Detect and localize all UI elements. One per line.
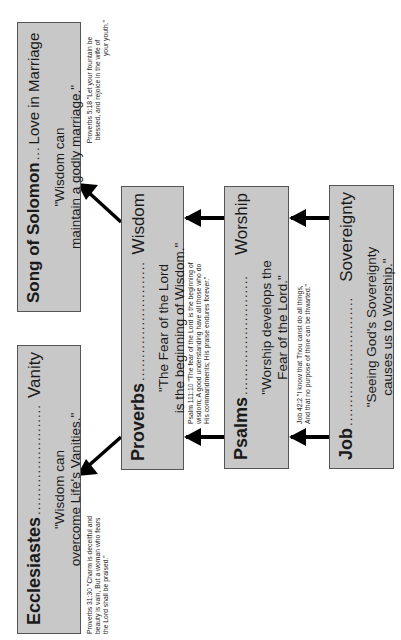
theme-label: Sovereignty <box>337 192 357 282</box>
verse-line: Proverbs 31:30 "Charm is deceitful and <box>86 484 94 634</box>
box-heading: Ecclesiastes ........................ Va… <box>24 352 50 625</box>
book-name: Job <box>336 428 357 460</box>
quote-line: "Wisdom can <box>52 346 68 633</box>
verse-line: And that no purpose of thine can be thwa… <box>304 224 312 424</box>
box-psalms: Psalms .......................... Worshi… <box>224 186 289 469</box>
verse-line: Proverbs 5:18 "Let your fountain be <box>86 20 94 160</box>
verse-line: beauty is vain, But a woman who fears <box>94 484 102 634</box>
verse-line: the Lord shall be praised." <box>102 484 110 634</box>
verse-line: your youth." <box>102 20 110 160</box>
book-name: Ecclesiastes <box>24 517 45 625</box>
box-proverbs: Proverbs .......................... Wisd… <box>121 186 184 470</box>
quote-line: "Worship develops the <box>259 187 275 468</box>
leader-dots: .......................... <box>235 257 250 395</box>
arrow-job-to-psalms-lower <box>289 428 329 446</box>
book-name: Proverbs <box>128 383 149 461</box>
box-quote: "The Fear of the Lord is the beginning o… <box>156 187 188 469</box>
verse-line: wisdom; A good understanding have all th… <box>195 224 203 424</box>
leader-dots: ............................ <box>340 284 355 426</box>
quote-line: causes us to Worship." <box>380 186 396 468</box>
quote-line: "Seeing God's Sovereignty <box>364 186 380 468</box>
quote-line: maintain a godly marriage." <box>68 23 84 311</box>
box-job: Job ............................ Soverei… <box>329 185 394 469</box>
flow-diagram: Song of Solomon ... Love in Marriage "Wi… <box>0 0 401 640</box>
arrow-psalms-to-proverbs-lower <box>184 428 224 446</box>
quote-line: Fear of the Lord." <box>275 187 291 468</box>
verse-line: Psalm 111:10 "The fear of the Lord is th… <box>187 224 195 424</box>
verse-job-42-2: Job 42:2 "I know that Thou canst do all … <box>296 224 312 424</box>
verse-line: His commandments; His praise endures for… <box>203 224 211 424</box>
verse-proverbs-5-18: Proverbs 5:18 "Let your fountain be bles… <box>86 20 110 160</box>
box-heading: Song of Solomon ... Love in Marriage <box>24 29 50 303</box>
box-song-of-solomon: Song of Solomon ... Love in Marriage "Wi… <box>17 22 81 312</box>
leader-dots: ........................ <box>28 400 43 515</box>
box-quote: "Wisdom can maintain a godly marriage." <box>52 23 84 311</box>
theme-label: Worship <box>232 193 252 255</box>
box-quote: "Worship develops the Fear of the Lord." <box>259 187 291 468</box>
leader-dots: ... <box>27 146 42 160</box>
leader-dots: .......................... <box>132 256 147 381</box>
box-quote: "Wisdom can overcome Life's Vanities." <box>52 346 84 633</box>
box-heading: Psalms .......................... Worshi… <box>231 193 257 460</box>
theme-label: Vanity <box>25 352 45 398</box>
quote-line: overcome Life's Vanities." <box>68 346 84 633</box>
box-heading: Job ............................ Soverei… <box>336 192 362 460</box>
book-name: Psalms <box>231 397 252 460</box>
quote-line: "The Fear of the Lord <box>156 187 172 469</box>
quote-line: is the beginning of Wisdom." <box>172 187 188 469</box>
box-quote: "Seeing God's Sovereignty causes us to W… <box>364 186 396 468</box>
box-heading: Proverbs .......................... Wisd… <box>128 193 154 461</box>
verse-line: blessed, and rejoice in the wife of <box>94 20 102 160</box>
theme-label: Love in Marriage <box>25 33 42 145</box>
book-name: Song of Solomon <box>24 162 44 303</box>
verse-line: Job 42:2 "I know that Thou canst do all … <box>296 224 304 424</box>
theme-label: Wisdom <box>129 193 149 254</box>
verse-psalm-111-10: Psalm 111:10 "The fear of the Lord is th… <box>187 224 211 424</box>
quote-line: "Wisdom can <box>52 23 68 311</box>
verse-proverbs-31-30: Proverbs 31:30 "Charm is deceitful and b… <box>86 484 110 634</box>
box-ecclesiastes: Ecclesiastes ........................ Va… <box>17 345 81 634</box>
